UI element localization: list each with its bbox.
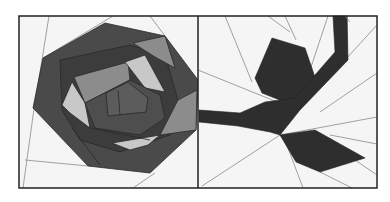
rose-block xyxy=(19,16,198,188)
quilt-pattern-figure xyxy=(0,0,390,202)
leaf-stem-block xyxy=(198,16,377,188)
